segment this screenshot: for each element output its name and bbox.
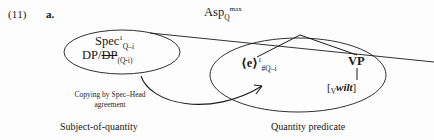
empty-category-node: ⟨e⟩1#Q–i: [241, 57, 276, 70]
spec-node: Spec1Q–i: [95, 35, 134, 48]
dp-node: DP/DP(Q-i): [82, 49, 132, 62]
empty-category-base: ⟨e⟩: [241, 56, 258, 70]
verb-close-bracket: ]: [353, 81, 357, 93]
empty-category-subscript: #Q–i: [261, 64, 276, 73]
diagram-lines: [0, 0, 434, 140]
quantity-predicate-label: Quantity predicate: [271, 121, 345, 132]
figure-canvas: (11) a. AspQmax Spec1Q–i DP/DP(Q-i) ⟨e⟩1…: [0, 0, 434, 140]
asp-superscript: max: [230, 5, 242, 13]
asp-max-label: AspQmax: [204, 6, 242, 19]
vp-node: VP: [348, 55, 365, 68]
right-ellipse-quantity-predicate: [210, 38, 386, 112]
branch-left-to-empty-category: [257, 35, 300, 57]
dp-second-struck: DP: [101, 48, 117, 62]
dp-first: DP: [82, 48, 98, 62]
dp-subscript: (Q-i): [117, 56, 132, 65]
asp-subscript: Q: [224, 13, 229, 22]
subject-of-quantity-label: Subject-of-quantity: [60, 121, 138, 132]
projection-line-asp: [150, 33, 434, 62]
verb-word: wilt: [336, 81, 353, 93]
copying-annotation: Copying by Spec–Head agreement: [55, 90, 165, 110]
verb-node: [Vwilt]: [327, 82, 356, 94]
